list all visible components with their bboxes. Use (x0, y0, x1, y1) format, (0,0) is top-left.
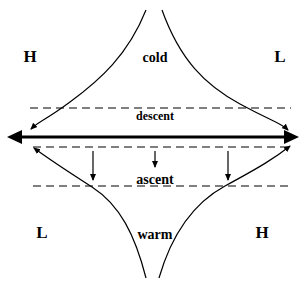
label-top-left-H: H (23, 47, 36, 66)
label-cold: cold (143, 50, 168, 65)
label-descent: descent (136, 109, 174, 123)
curve-arrow-bottom-right (159, 146, 290, 278)
label-bottom-left-L: L (36, 223, 47, 242)
main-double-arrow (7, 130, 299, 144)
curve-arrow-top-right (162, 10, 288, 130)
label-ascent: ascent (136, 172, 174, 187)
curve-arrow-top-left (31, 10, 146, 129)
label-bottom-right-H: H (255, 223, 268, 242)
curve-arrow-bottom-left (34, 148, 146, 278)
atmospheric-flow-diagram: H cold L descent ascent L warm H (0, 0, 304, 285)
label-warm: warm (138, 227, 173, 242)
label-top-right-L: L (274, 47, 285, 66)
